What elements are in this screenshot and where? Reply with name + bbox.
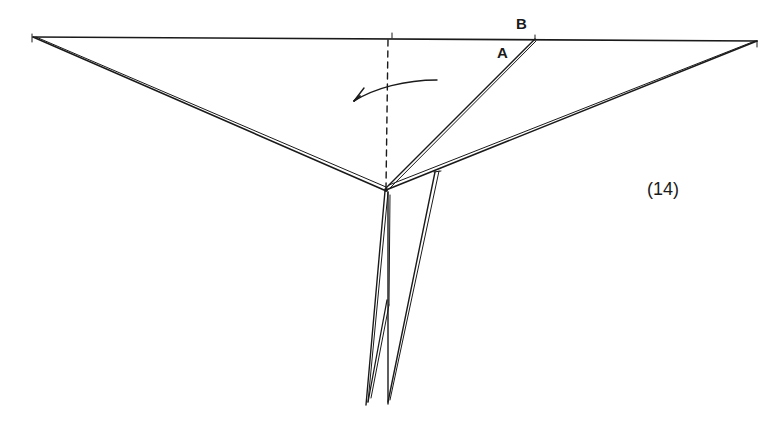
center-crease-dashed bbox=[386, 40, 388, 188]
left-flap-edge bbox=[33, 37, 386, 190]
step-number: (14) bbox=[647, 180, 679, 198]
center-leg bbox=[388, 192, 390, 404]
point-label-b: B bbox=[516, 16, 527, 31]
fold-arrow bbox=[354, 80, 437, 101]
diagram-drawing bbox=[0, 0, 780, 429]
inner-flap-edge-a bbox=[386, 39, 536, 188]
origami-diagram: B A (14) bbox=[0, 0, 780, 429]
right-flap-edge bbox=[386, 41, 757, 190]
top-edge-line bbox=[33, 37, 757, 41]
left-leg bbox=[366, 191, 388, 405]
right-strip-edge bbox=[388, 171, 441, 402]
point-label-a: A bbox=[497, 45, 508, 60]
